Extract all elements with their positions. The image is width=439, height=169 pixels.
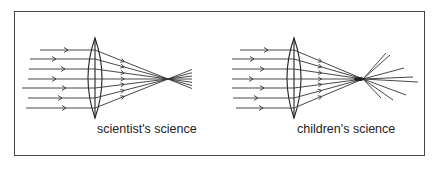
scattered-ray <box>363 79 393 100</box>
scattered-ray <box>363 79 381 98</box>
caption-childrens-science: children's science <box>297 122 395 136</box>
diagram-stage: scientist's science children's science <box>0 0 439 169</box>
caption-scientists-science: scientist's science <box>97 122 197 136</box>
panel-scientists-science <box>22 38 192 118</box>
lens-diagram <box>0 0 439 169</box>
panel-childrens-science <box>232 38 418 118</box>
scattered-ray <box>363 79 418 82</box>
scattered-ray <box>363 53 386 79</box>
